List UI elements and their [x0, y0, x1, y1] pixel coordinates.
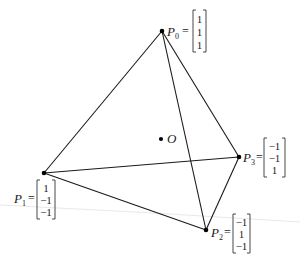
- p0-vec-y: 1: [197, 26, 203, 38]
- p1-vec-y: −1: [40, 194, 52, 206]
- p2-vec-z: −1: [236, 240, 248, 252]
- p1-annotation: P1 = 1 −1 −1: [13, 180, 55, 219]
- p3-vec-x: −1: [269, 140, 281, 152]
- p2-equals: =: [224, 225, 231, 239]
- p1-vec-z: −1: [40, 206, 52, 218]
- p2-vec-y: 1: [239, 228, 245, 240]
- p3-vec-z: 1: [272, 164, 278, 176]
- p0-right-bracket: [203, 10, 206, 52]
- p0-equals: =: [182, 24, 189, 38]
- tetrahedron-diagram: O P0 = 1 1 1 P1 = 1 −1 −1 P2 = −1 1 −1 P…: [0, 0, 300, 269]
- edge-p0-p1: [44, 31, 162, 173]
- p3-vec-y: −1: [269, 152, 281, 164]
- p0-left-bracket: [193, 10, 196, 52]
- p3-right-bracket: [282, 138, 285, 177]
- vertex-p0-dot: [160, 29, 165, 34]
- p2-vec-x: −1: [236, 216, 248, 228]
- p0-label: P0: [166, 24, 179, 41]
- p2-right-bracket: [247, 214, 250, 253]
- p2-annotation: P2 = −1 1 −1: [210, 214, 250, 253]
- p3-equals: =: [256, 150, 263, 164]
- p0-vec-z: 1: [197, 39, 203, 51]
- edge-p1-p3: [44, 157, 239, 173]
- p0-annotation: P0 = 1 1 1: [166, 10, 206, 52]
- p3-left-bracket: [264, 138, 267, 177]
- p1-equals: =: [28, 191, 35, 205]
- edge-p2-p3: [206, 157, 239, 230]
- p3-annotation: P3 = −1 −1 1: [242, 138, 285, 177]
- p1-label: P1: [13, 191, 26, 208]
- edges: [44, 31, 239, 230]
- p2-label: P2: [210, 225, 223, 242]
- p3-label: P3: [242, 150, 255, 167]
- p1-right-bracket: [52, 180, 55, 219]
- vertex-p1-dot: [42, 171, 47, 176]
- p1-vec-x: 1: [43, 182, 49, 194]
- edge-p1-p2: [44, 173, 206, 230]
- vertex-p2-dot: [204, 228, 209, 233]
- vertex-p3-dot: [237, 155, 242, 160]
- center-o-dot: [159, 137, 163, 141]
- p0-vec-x: 1: [197, 13, 203, 25]
- center-o-label: O: [167, 131, 177, 146]
